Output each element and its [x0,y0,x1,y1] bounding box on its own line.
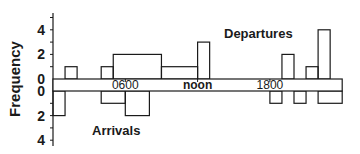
departures-bar [282,54,294,79]
arrivals-bar [294,91,306,103]
arrivals-bar [270,91,282,103]
arrivals-bar [53,91,65,116]
frequency-chart: 024024 0600noon1800 Frequency Departures… [0,0,360,154]
x-tick-label: 1800 [257,78,284,92]
departures-bar [65,67,77,79]
y-tick-label: 4 [37,132,45,148]
x-tick-label: 0600 [112,78,139,92]
y-tick-label: 2 [37,108,45,124]
y-axis: 024024 [37,13,53,148]
arrivals-bar [101,91,125,103]
departures-bar [198,42,210,79]
departures-bar [306,67,318,79]
departures-bar [318,30,330,79]
histogram-bars [53,30,342,116]
x-tick-label: noon [183,78,212,92]
y-tick-label: 0 [37,83,45,99]
y-axis-label: Frequency [6,40,23,117]
departures-label: Departures [224,26,293,41]
arrivals-bar [318,91,342,103]
arrivals-label: Arrivals [92,123,140,138]
time-axis-band: 0600noon1800 [53,78,342,92]
y-tick-label: 2 [37,46,45,62]
arrivals-bar [125,91,149,116]
y-tick-label: 4 [37,22,45,38]
departures-bar [113,54,161,79]
